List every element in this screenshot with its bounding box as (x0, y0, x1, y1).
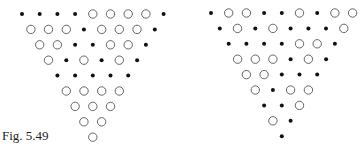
open-circle (313, 40, 321, 48)
filled-dot (262, 42, 266, 46)
open-circle (286, 86, 294, 94)
open-circle (106, 41, 114, 49)
open-circle (251, 86, 259, 94)
open-circle (124, 41, 132, 49)
open-circle (44, 25, 52, 33)
left-triangle (20, 10, 166, 142)
filled-dot (64, 58, 68, 62)
open-circle (225, 9, 233, 17)
open-circle (304, 86, 312, 94)
open-circle (242, 70, 250, 78)
open-circle (115, 56, 123, 64)
open-circle (269, 24, 277, 32)
open-circle (124, 10, 132, 18)
filled-dot (218, 26, 222, 30)
open-circle (142, 10, 150, 18)
open-circle (44, 56, 52, 64)
filled-dot (262, 103, 266, 107)
filled-dot (298, 73, 302, 77)
open-circle (348, 9, 356, 17)
open-circle (80, 87, 88, 95)
open-circle (269, 117, 277, 125)
open-circle (36, 41, 44, 49)
filled-dot (333, 42, 337, 46)
open-circle (133, 25, 141, 33)
filled-dot (289, 57, 293, 61)
filled-dot (280, 42, 284, 46)
open-circle (331, 9, 339, 17)
filled-dot (324, 26, 328, 30)
open-circle (295, 101, 303, 109)
filled-dot (324, 57, 328, 61)
open-circle (80, 56, 88, 64)
open-circle (106, 102, 114, 110)
filled-dot (271, 88, 275, 92)
open-circle (304, 55, 312, 63)
filled-dot (91, 74, 95, 78)
filled-dot (55, 74, 59, 78)
filled-dot (315, 73, 319, 77)
filled-dot (209, 11, 213, 15)
open-circle (260, 70, 268, 78)
open-circle (251, 55, 259, 63)
open-circle (89, 10, 97, 18)
open-circle (27, 25, 35, 33)
filled-dot (227, 42, 231, 46)
filled-dot (55, 12, 59, 16)
open-circle (98, 87, 106, 95)
open-circle (62, 25, 70, 33)
filled-dot (144, 43, 148, 47)
open-circle (98, 25, 106, 33)
filled-dot (20, 12, 24, 16)
filled-dot (280, 73, 284, 77)
open-circle (53, 41, 61, 49)
open-circle (295, 9, 303, 17)
filled-dot (280, 103, 284, 107)
filled-dot (280, 134, 284, 138)
open-circle (242, 9, 250, 17)
filled-dot (109, 74, 113, 78)
open-circle (62, 87, 70, 95)
open-circle (89, 133, 97, 141)
open-circle (233, 55, 241, 63)
open-circle (89, 102, 97, 110)
filled-dot (162, 12, 166, 16)
filled-dot (135, 58, 139, 62)
filled-dot (280, 11, 284, 15)
filled-dot (289, 26, 293, 30)
open-circle (106, 10, 114, 18)
open-circle (97, 118, 105, 126)
filled-dot (253, 26, 257, 30)
filled-dot (73, 43, 77, 47)
open-circle (115, 87, 123, 95)
filled-dot (91, 43, 95, 47)
filled-dot (73, 12, 77, 16)
filled-dot (306, 26, 310, 30)
open-circle (115, 25, 123, 33)
filled-dot (100, 58, 104, 62)
filled-dot (262, 11, 266, 15)
figure-canvas (0, 0, 359, 151)
open-circle (80, 118, 88, 126)
open-circle (295, 40, 303, 48)
filled-dot (126, 74, 130, 78)
filled-dot (315, 11, 319, 15)
right-triangle (209, 9, 357, 138)
figure-caption: Fig. 5.49 (2, 128, 49, 144)
open-circle (233, 24, 241, 32)
filled-dot (244, 42, 248, 46)
open-circle (71, 102, 79, 110)
open-circle (269, 55, 277, 63)
filled-dot (289, 119, 293, 123)
filled-dot (82, 27, 86, 31)
open-circle (340, 24, 348, 32)
filled-dot (38, 12, 42, 16)
filled-dot (73, 74, 77, 78)
filled-dot (153, 27, 157, 31)
